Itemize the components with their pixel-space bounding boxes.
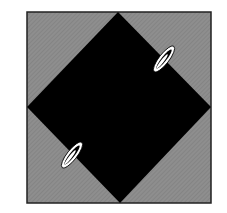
diamond-in-square-diagram — [0, 0, 227, 213]
